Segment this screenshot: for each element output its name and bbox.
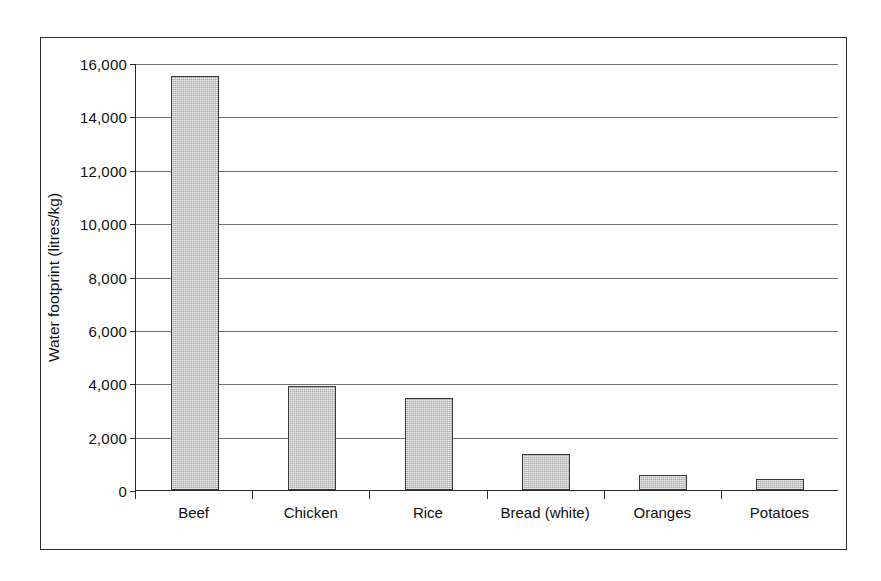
- x-tick-label: Potatoes: [721, 504, 838, 521]
- y-tick-label: 16,000: [80, 56, 127, 73]
- bar-chicken: [288, 386, 336, 490]
- x-tick-label: Oranges: [604, 504, 721, 521]
- bar-slot: [721, 64, 838, 490]
- x-tick-label: Chicken: [252, 504, 369, 521]
- x-tick-mark: [369, 491, 370, 499]
- bar-oranges: [639, 475, 687, 490]
- bar-slot: [487, 64, 604, 490]
- y-tick-label: 12,000: [80, 162, 127, 179]
- x-tick-mark: [604, 491, 605, 499]
- bar-beef: [171, 76, 219, 490]
- y-tick-label: 10,000: [80, 216, 127, 233]
- y-tick-label: 8,000: [88, 269, 127, 286]
- y-tick-label: 2,000: [88, 429, 127, 446]
- plot-area: 16,00014,00012,00010,0008,0006,0004,0002…: [135, 64, 838, 491]
- x-axis-labels: BeefChickenRiceBread (white)OrangesPotat…: [135, 504, 838, 521]
- y-tick-label: 4,000: [88, 376, 127, 393]
- bar-rice: [405, 398, 453, 490]
- bar-series: [136, 64, 838, 490]
- figure-frame: Water footprint (litres/kg) 16,00014,000…: [40, 37, 847, 550]
- y-tick-label: 0: [118, 483, 127, 500]
- y-axis-title: Water footprint (litres/kg): [37, 64, 71, 491]
- x-tick-label: Rice: [369, 504, 486, 521]
- y-tick-label: 6,000: [88, 322, 127, 339]
- x-tick-label: Beef: [135, 504, 252, 521]
- x-tick-mark: [487, 491, 488, 499]
- y-axis-title-wrapper: Water footprint (litres/kg): [49, 64, 83, 491]
- y-tick-label: 14,000: [80, 109, 127, 126]
- bar-bread-white: [522, 454, 570, 490]
- bar-slot: [370, 64, 487, 490]
- bar-slot: [604, 64, 721, 490]
- bar-potatoes: [756, 479, 804, 490]
- x-tick-mark: [721, 491, 722, 499]
- x-tick-mark: [135, 491, 136, 499]
- x-axis-ticks: [135, 491, 838, 500]
- bar-slot: [253, 64, 370, 490]
- x-tick-label: Bread (white): [487, 504, 604, 521]
- bar-slot: [136, 64, 253, 490]
- x-tick-mark: [252, 491, 253, 499]
